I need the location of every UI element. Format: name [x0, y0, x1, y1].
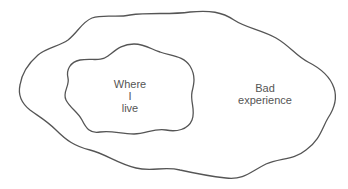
outer-region-label: Bad experience: [230, 82, 300, 106]
inner-region-label: Where I live: [100, 78, 160, 114]
